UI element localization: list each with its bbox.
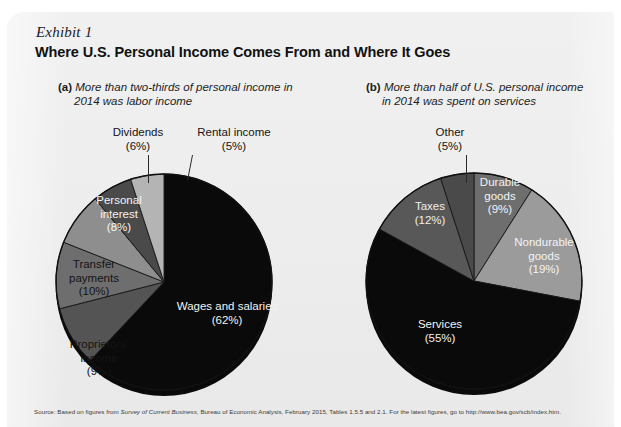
slice-label-proprietors: Proprietors' income (9%)	[60, 338, 138, 379]
slice-label-rental: Rental income (5%)	[185, 126, 283, 153]
slice-label-dividends: Dividends (6%)	[99, 126, 177, 153]
leader-line-dividends	[148, 155, 149, 183]
slice-label-interest: Personal interest (8%)	[84, 194, 154, 235]
caption-b: (b) More than half of U.S. personal inco…	[366, 80, 616, 108]
page-top-margin	[0, 0, 621, 12]
caption-b-line1: More than half of U.S. personal income	[384, 81, 583, 93]
caption-a: (a) More than two-thirds of personal inc…	[58, 80, 308, 108]
slice-label-services: Services (55%)	[392, 318, 488, 345]
exhibit-figure: Exhibit 1 Where U.S. Personal Income Com…	[0, 0, 621, 427]
caption-a-line1: More than two-thirds of personal income …	[75, 81, 292, 93]
caption-b-line2: in 2014 was spent on services	[366, 94, 616, 108]
source-italic: Survey of Current Business	[121, 408, 197, 415]
slice-label-transfer: Transfer payments (10%)	[56, 258, 132, 299]
slice-label-durable: Durable goods (9%)	[468, 176, 532, 217]
slice-label-wages: Wages and salaries (62%)	[163, 300, 291, 327]
caption-a-tag: (a)	[58, 81, 72, 93]
slice-label-other: Other (5%)	[420, 126, 480, 153]
exhibit-title: Where U.S. Personal Income Comes From an…	[35, 44, 450, 60]
slice-label-taxes: Taxes (12%)	[398, 200, 462, 227]
caption-b-tag: (b)	[366, 81, 381, 93]
exhibit-label: Exhibit 1	[36, 24, 92, 41]
slice-label-nondurable: Nondurable goods (19%)	[502, 236, 586, 277]
source-note: Source: Based on figures from Survey of …	[34, 407, 609, 416]
source-suffix: , Bureau of Economic Analysis, February …	[197, 408, 561, 415]
caption-a-line2: 2014 was labor income	[58, 94, 308, 108]
leader-line-other	[466, 155, 467, 183]
source-prefix: Source: Based on figures from	[34, 408, 121, 415]
